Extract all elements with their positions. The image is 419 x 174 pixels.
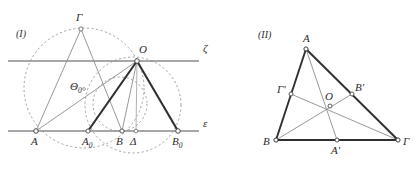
label-Theta0-base: Θ — [70, 80, 78, 92]
seg-O-B0 — [137, 61, 178, 131]
vertex-marker-B0 — [176, 129, 181, 134]
seg-Gamma-B — [81, 29, 122, 131]
figure-2-group: (II) A B Γ Γ′ B′ A′ O — [258, 29, 410, 156]
label-A: A — [30, 135, 38, 147]
vertex-marker-Gamma — [79, 27, 83, 31]
label-Gamma-prime-mark: ′ — [283, 83, 286, 95]
vertex-marker-O — [135, 59, 140, 64]
figure-1-caption: (I) — [16, 28, 27, 40]
label-Theta0-subscript: 0 — [78, 86, 82, 95]
label-B0: B0 — [172, 135, 183, 150]
median-Gamma-Gammaprime — [291, 94, 398, 140]
vertex-marker-Gamma-prime — [289, 92, 293, 96]
vertex-marker-A — [34, 129, 39, 134]
label-Gamma-prime: Γ′ — [276, 83, 286, 95]
label-B-fig2: B — [263, 135, 270, 147]
label-Gamma: Γ — [75, 11, 83, 23]
vertex-marker-A-fig2 — [304, 47, 308, 51]
label-A0: A0 — [81, 135, 93, 150]
label-line-zeta: ζ — [203, 42, 209, 55]
label-B0-subscript: 0 — [179, 141, 183, 150]
vertex-marker-O-fig2 — [328, 104, 332, 108]
label-Delta: Δ — [129, 135, 136, 147]
label-B: B — [116, 135, 123, 147]
geometry-figure-panel: (I) Γ O Θ0 A A0 B Δ B0 ζ ε — [0, 0, 419, 174]
vertex-marker-Gamma-fig2 — [396, 138, 400, 142]
vertex-marker-B — [120, 129, 124, 133]
figure-2-caption: (II) — [258, 29, 272, 41]
label-O: O — [139, 43, 147, 55]
label-A0-subscript: 0 — [89, 141, 93, 150]
label-O-fig2: O — [325, 90, 333, 102]
geometry-svg-canvas: (I) Γ O Θ0 A A0 B Δ B0 ζ ε — [0, 0, 419, 174]
label-Gamma-fig2: Γ — [402, 135, 410, 147]
vertex-marker-A-prime — [335, 138, 339, 142]
center-marker-Theta0 — [83, 88, 86, 91]
median-B-Bprime — [276, 94, 352, 140]
label-A-fig2: A — [302, 32, 310, 44]
label-line-epsilon: ε — [203, 117, 208, 129]
label-B-prime-mark: ′ — [362, 81, 365, 93]
figure-1-group: (I) Γ O Θ0 A A0 B Δ B0 ζ ε — [8, 11, 209, 153]
vertex-marker-A0 — [86, 129, 90, 133]
label-B-prime: B′ — [355, 81, 365, 93]
label-A-prime: A′ — [330, 144, 341, 156]
vertex-marker-B-fig2 — [274, 138, 278, 142]
vertex-marker-B-prime — [350, 92, 354, 96]
seg-O-Delta — [136, 61, 137, 131]
vertex-marker-Delta — [134, 129, 138, 133]
label-A-prime-mark: ′ — [338, 144, 341, 156]
label-Theta0: Θ0 — [70, 80, 82, 95]
